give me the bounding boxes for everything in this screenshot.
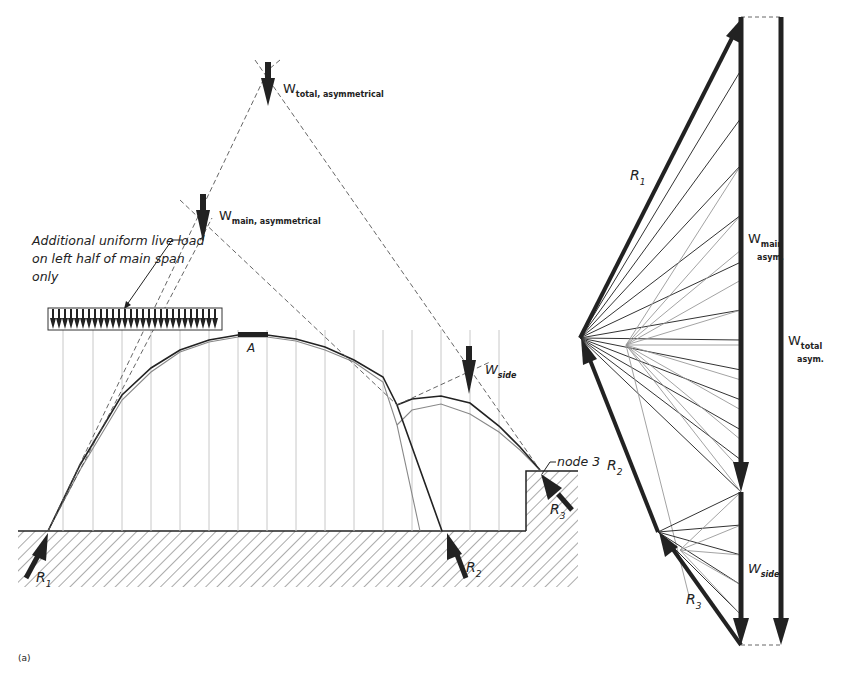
w-main-label: Wmain, asymmetrical [219, 208, 321, 226]
side-asymmetric-thrust-line [397, 396, 540, 470]
live-load-bar [48, 308, 222, 330]
crown-segment-a [238, 332, 268, 337]
w-total-label: Wtotal, asymmetrical [283, 81, 384, 99]
w-total-arrow [261, 62, 275, 106]
polygon-w-side-vector [733, 492, 749, 645]
live-load-note-line3: only [32, 269, 59, 284]
hanger-grid [63, 330, 499, 531]
polygon-w-main-label: Wmain [748, 231, 783, 249]
polygon-w-total-vector [773, 17, 789, 645]
figure-label: (a) [18, 653, 31, 663]
live-load-leader [126, 240, 182, 306]
ground-hatch [18, 471, 578, 587]
side-pole-rays [658, 492, 741, 615]
live-load-note-line1: Additional uniform live load [31, 233, 204, 248]
crown-label: A [246, 341, 255, 355]
funicular-structure: A [18, 60, 600, 663]
w-side-label: Wside [485, 362, 517, 380]
force-polygon: R1 R2 R3 Wmain asym. Wside [580, 17, 824, 645]
side-symmetric-thrust-line [397, 404, 540, 470]
polygon-w-total-sub2: asym. [797, 355, 824, 364]
polygon-r3-vector [659, 532, 741, 645]
pole-rays-symmetric [626, 165, 741, 600]
polygon-r2-label: R2 [607, 457, 623, 477]
polygon-w-side-label: Wside [748, 561, 780, 579]
funicular-diagram: A [0, 0, 842, 676]
polygon-w-total-label: Wtotal [788, 333, 822, 351]
live-load-note-line2: on left half of main span [32, 251, 185, 266]
node-3-label: node 3 [557, 454, 600, 469]
pole-rays-asymmetric [580, 70, 741, 492]
polygon-r3-label: R3 [686, 591, 702, 611]
w-side-arrow [462, 346, 476, 394]
polygon-r1-label: R1 [630, 167, 645, 187]
